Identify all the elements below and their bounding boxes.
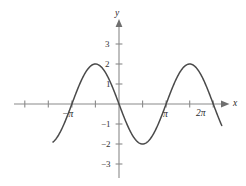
x-tick-label-pi: π bbox=[163, 110, 168, 120]
y-axis-label: y bbox=[115, 9, 119, 19]
y-tick-label-2: 2 bbox=[105, 60, 110, 69]
y-tick-label-3: 3 bbox=[105, 40, 110, 49]
graph-figure: y x 3 2 1 −1 −2 −3 −π π 2π bbox=[0, 0, 246, 186]
x-tick-label-two-pi: 2π bbox=[196, 109, 206, 119]
x-axis-label: x bbox=[233, 99, 237, 109]
y-tick-label-1: 1 bbox=[106, 80, 111, 89]
x-axis-arrow-icon bbox=[221, 101, 230, 108]
x-tick-label-minus-pi: −π bbox=[62, 110, 73, 120]
y-axis-arrow-icon bbox=[116, 19, 123, 27]
y-tick-label-minus-1: −1 bbox=[101, 120, 111, 129]
sine-curve-plot bbox=[0, 0, 246, 186]
y-tick-label-minus-3: −3 bbox=[101, 160, 111, 169]
y-tick-label-minus-2: −2 bbox=[101, 140, 111, 149]
